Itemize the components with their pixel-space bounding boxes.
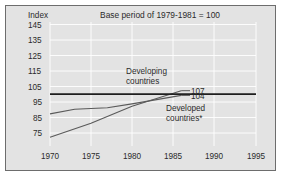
y-tick-label-85: 85 bbox=[33, 114, 43, 123]
annotation-developing-line1: Developing bbox=[126, 67, 167, 76]
y-tick-label-135: 135 bbox=[28, 36, 42, 45]
x-tick-label-1980: 1980 bbox=[123, 152, 142, 161]
line-chart: 145 135 125 115 105 95 85 75 Index Base … bbox=[0, 0, 283, 180]
x-tick-label-1970: 1970 bbox=[41, 152, 60, 161]
y-tick-labels: 145 135 125 115 105 95 85 75 bbox=[28, 21, 43, 139]
y-tick-label-145: 145 bbox=[28, 21, 42, 30]
y-tick-label-95: 95 bbox=[33, 98, 43, 107]
data-value-104: 104 bbox=[191, 92, 205, 101]
x-tick-label-1985: 1985 bbox=[164, 152, 183, 161]
chart-title: Base period of 1979-1981 = 100 bbox=[100, 10, 220, 20]
annotation-developed-line2: countries* bbox=[166, 114, 203, 123]
y-tick-label-115: 115 bbox=[28, 67, 41, 76]
y-axis-title: Index bbox=[28, 11, 48, 20]
annotation-developing-line2: countries bbox=[126, 77, 159, 86]
y-tick-label-125: 125 bbox=[28, 52, 42, 61]
y-tick-label-75: 75 bbox=[33, 129, 43, 138]
x-tick-label-1975: 1975 bbox=[82, 152, 101, 161]
x-tick-label-1995: 1995 bbox=[247, 152, 266, 161]
chart-figure: 145 135 125 115 105 95 85 75 Index Base … bbox=[0, 0, 283, 180]
y-tick-label-105: 105 bbox=[28, 83, 42, 92]
x-tick-labels: 1970 1975 1980 1985 1990 1995 bbox=[41, 152, 266, 161]
annotation-developed-line1: Developed bbox=[166, 104, 206, 113]
x-tick-label-1990: 1990 bbox=[205, 152, 224, 161]
